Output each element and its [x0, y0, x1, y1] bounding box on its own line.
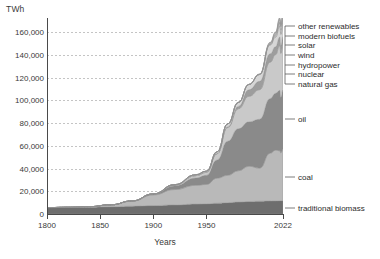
legend-label-hydropower: hydropower	[298, 61, 340, 70]
y-tick-160000: 160,000	[0, 28, 44, 37]
x-tickmark-1800	[47, 215, 48, 219]
x-tick-1900: 1900	[144, 221, 162, 230]
legend-label-oil: oil	[298, 115, 306, 124]
x-tickmark-1850	[100, 215, 101, 219]
legend-label-wind: wind	[298, 51, 314, 60]
y-tick-120000: 120,000	[0, 73, 44, 82]
x-tickmark-1900	[153, 215, 154, 219]
legend-label-other-renewables: other renewables	[298, 22, 359, 31]
plot-area	[47, 18, 283, 214]
chart-canvas: TWh 020,00040,00060,00080,000100,000120,…	[0, 0, 380, 259]
y-tick-20000: 20,000	[0, 187, 44, 196]
y-tick-140000: 140,000	[0, 50, 44, 59]
x-tick-1950: 1950	[198, 221, 216, 230]
y-axis-line	[47, 18, 48, 215]
legend-label-modern-biofuels: modern biofuels	[298, 32, 355, 41]
x-axis-line	[47, 214, 284, 215]
x-tick-1800: 1800	[38, 221, 56, 230]
x-axis-title: Years	[47, 237, 283, 247]
legend-label-nuclear: nuclear	[298, 70, 324, 79]
legend-label-traditional-biomass: traditional biomass	[298, 204, 365, 213]
y-tick-80000: 80,000	[0, 119, 44, 128]
y-tick-100000: 100,000	[0, 96, 44, 105]
x-tick-1850: 1850	[91, 221, 109, 230]
stacked-area-series	[47, 18, 283, 214]
y-tick-0: 0	[0, 210, 44, 219]
legend-label-natural-gas: natural gas	[298, 80, 338, 89]
legend-label-solar: solar	[298, 41, 315, 50]
y-tick-40000: 40,000	[0, 164, 44, 173]
legend-label-coal: coal	[298, 173, 313, 182]
x-tickmark-1950	[206, 215, 207, 219]
legend: other renewablesmodern biofuelssolarwind…	[283, 0, 380, 259]
y-tick-60000: 60,000	[0, 141, 44, 150]
